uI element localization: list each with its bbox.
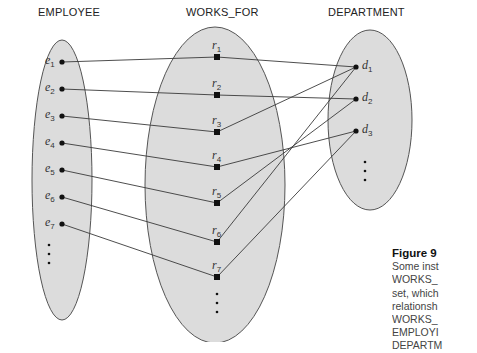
figure-label: Figure 9 <box>392 247 477 260</box>
employee-node-e3 <box>59 113 64 118</box>
relationship-node-r4 <box>214 164 220 170</box>
caption-line: WORKS_ <box>392 313 477 326</box>
employee-node-e7 <box>59 221 64 226</box>
department-set-title: DEPARTMENT <box>328 6 405 18</box>
works_for-set-title: WORKS_FOR <box>186 6 259 18</box>
department-node-d1 <box>353 64 358 69</box>
employee-node-e2 <box>59 86 64 91</box>
works_for-ellipsis-dot <box>216 311 219 314</box>
employee-set-title: EMPLOYEE <box>38 6 100 18</box>
employee-ellipsis-dot <box>48 253 51 256</box>
employee-set-ellipse <box>32 40 92 320</box>
department-ellipsis-dot <box>364 161 367 164</box>
caption-line: EMPLOYI <box>392 326 477 339</box>
works_for-ellipsis-dot <box>216 293 219 296</box>
employee-ellipsis-dot <box>48 262 51 265</box>
employee-ellipsis-dot <box>48 244 51 247</box>
employee-node-e1 <box>59 59 64 64</box>
employee-node-e6 <box>59 194 64 199</box>
relationship-node-r3 <box>214 129 220 135</box>
caption-line: set, which <box>392 287 477 300</box>
caption-line: DEPARTM <box>392 339 477 352</box>
department-ellipsis-dot <box>364 179 367 182</box>
caption-line: Some inst <box>392 260 477 273</box>
relationship-node-r1 <box>214 54 220 60</box>
department-set-ellipse <box>328 30 412 210</box>
caption-line: relationsh <box>392 300 477 313</box>
employee-node-e5 <box>59 167 64 172</box>
works_for-ellipsis-dot <box>216 302 219 305</box>
department-node-d3 <box>353 128 358 133</box>
figure-caption: Figure 9 Some inst WORKS_ set, which rel… <box>392 247 477 353</box>
relationship-node-r7 <box>214 274 220 280</box>
department-node-d2 <box>353 96 358 101</box>
department-ellipsis-dot <box>364 170 367 173</box>
employee-node-e4 <box>59 140 64 145</box>
relationship-node-r6 <box>214 239 220 245</box>
set-titles: EMPLOYEEWORKS_FORDEPARTMENT <box>38 6 405 18</box>
relationship-node-r2 <box>214 92 220 98</box>
relationship-node-r5 <box>214 200 220 206</box>
caption-line: WORKS_ <box>392 273 477 286</box>
entity-sets <box>32 27 412 342</box>
